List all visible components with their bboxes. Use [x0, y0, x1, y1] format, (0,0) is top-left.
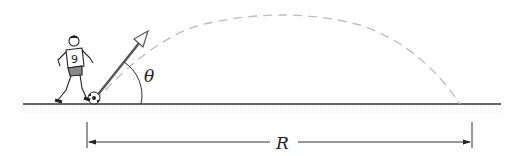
angle-arc	[124, 62, 142, 104]
angle-label: θ	[144, 66, 154, 86]
player-number: 9	[71, 53, 78, 66]
soccer-player-icon: 9	[55, 36, 93, 102]
ground	[23, 104, 501, 113]
range-label: R	[275, 133, 289, 153]
velocity-arrow	[96, 31, 148, 97]
projectile-diagram: θ 9 R	[0, 0, 518, 156]
trajectory-path	[95, 15, 460, 104]
soccer-ball-icon	[88, 92, 100, 104]
